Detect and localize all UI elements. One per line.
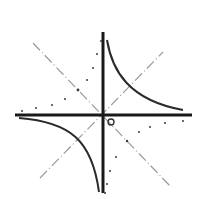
hyperbola-q1	[107, 40, 183, 110]
hyperbola-q3	[19, 118, 99, 192]
graph-canvas	[0, 0, 206, 199]
origin-label: o	[0, 0, 1, 1]
dotted-curve-q4	[104, 120, 184, 194]
dotted-curve-q2	[21, 40, 102, 112]
hyperbola-diagram: o	[0, 0, 206, 199]
